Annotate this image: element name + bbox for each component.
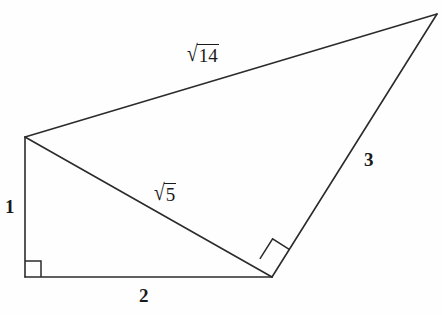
label-sqrt-14: √14 bbox=[185, 44, 219, 66]
surd-icon: √ bbox=[154, 182, 165, 204]
label-sqrt-5: √5 bbox=[152, 183, 176, 205]
radical-sqrt-5: √5 bbox=[152, 183, 176, 205]
segment-right-slant-side bbox=[272, 14, 437, 277]
label-side-one: 1 bbox=[5, 197, 15, 216]
radicand-value: 14 bbox=[197, 44, 219, 66]
segment-hypotenuse-diagonal bbox=[25, 137, 272, 277]
label-side-three: 3 bbox=[364, 150, 374, 169]
segment-upper-long-side bbox=[25, 14, 437, 137]
surd-icon: √ bbox=[187, 43, 198, 65]
geometry-figure: √14 √5 3 2 1 bbox=[0, 0, 442, 315]
label-side-two: 2 bbox=[139, 286, 149, 305]
radicand-value: 5 bbox=[164, 183, 177, 205]
right-angle-marker-bottom-left bbox=[25, 261, 41, 277]
radical-sqrt-14: √14 bbox=[185, 44, 219, 66]
geometry-canvas bbox=[0, 0, 442, 315]
